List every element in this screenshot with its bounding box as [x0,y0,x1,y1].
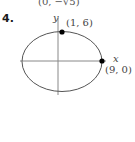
point-right-dot [99,58,104,63]
point-top-label: (1, 6) [66,17,93,28]
point-top-dot [59,29,64,34]
x-axis-label: x [113,53,119,64]
y-axis-label: y [53,12,59,23]
point-right-label: (9, 0) [105,64,132,75]
